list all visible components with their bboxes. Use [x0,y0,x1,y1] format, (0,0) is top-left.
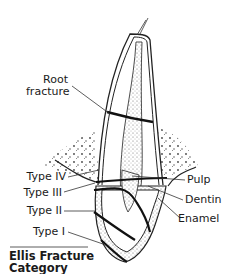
label-type-ii: Type II [18,205,62,217]
label-dentin: Dentin [185,194,222,206]
label-root-fracture: Root fracture [26,74,68,98]
label-enamel: Enamel [178,213,219,225]
label-pulp: Pulp [187,174,210,186]
label-type-iii: Type III [18,187,62,199]
label-type-iv: Type IV [18,171,66,183]
diagram-title: Ellis Fracture Category [9,250,94,274]
label-type-i: Type I [18,226,65,238]
